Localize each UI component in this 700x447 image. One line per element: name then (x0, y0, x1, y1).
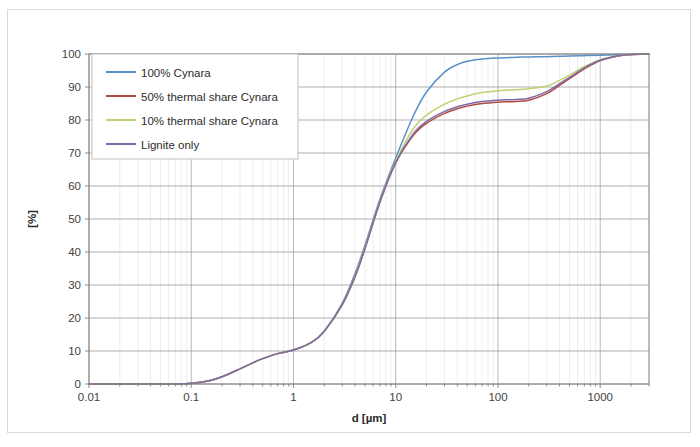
x-tick-label: 1 (290, 391, 296, 403)
y-tick-label: 90 (68, 81, 81, 93)
x-tick-label: 10 (389, 391, 402, 403)
legend-label-1: 50% thermal share Cynara (141, 91, 278, 103)
y-axis-tick-labels: 0102030405060708090100 (62, 48, 89, 390)
x-tick-label: 1000 (587, 391, 613, 403)
x-tick-label: 0.01 (78, 391, 100, 403)
chart-figure: 0.010.11101001000 0102030405060708090100… (7, 9, 691, 433)
y-tick-label: 80 (68, 114, 81, 126)
y-tick-label: 70 (68, 147, 81, 159)
x-tick-label: 0.1 (183, 391, 199, 403)
y-tick-label: 50 (68, 213, 81, 225)
chart-legend: 100% Cynara50% thermal share Cynara10% t… (92, 54, 298, 159)
x-tick-label: 100 (488, 391, 507, 403)
x-axis-tick-labels: 0.010.11101001000 (78, 384, 649, 403)
y-axis-title: [%] (26, 210, 38, 228)
y-tick-label: 10 (68, 345, 81, 357)
y-tick-label: 60 (68, 180, 81, 192)
particle-size-distribution-chart: 0.010.11101001000 0102030405060708090100… (8, 10, 690, 432)
y-tick-label: 30 (68, 279, 81, 291)
legend-label-3: Lignite only (141, 139, 199, 151)
x-axis-title: d [µm] (352, 412, 387, 424)
y-tick-label: 20 (68, 312, 81, 324)
legend-label-0: 100% Cynara (141, 67, 211, 79)
legend-label-2: 10% thermal share Cynara (141, 115, 278, 127)
y-tick-label: 100 (62, 48, 81, 60)
y-tick-label: 0 (75, 378, 81, 390)
y-tick-label: 40 (68, 246, 81, 258)
